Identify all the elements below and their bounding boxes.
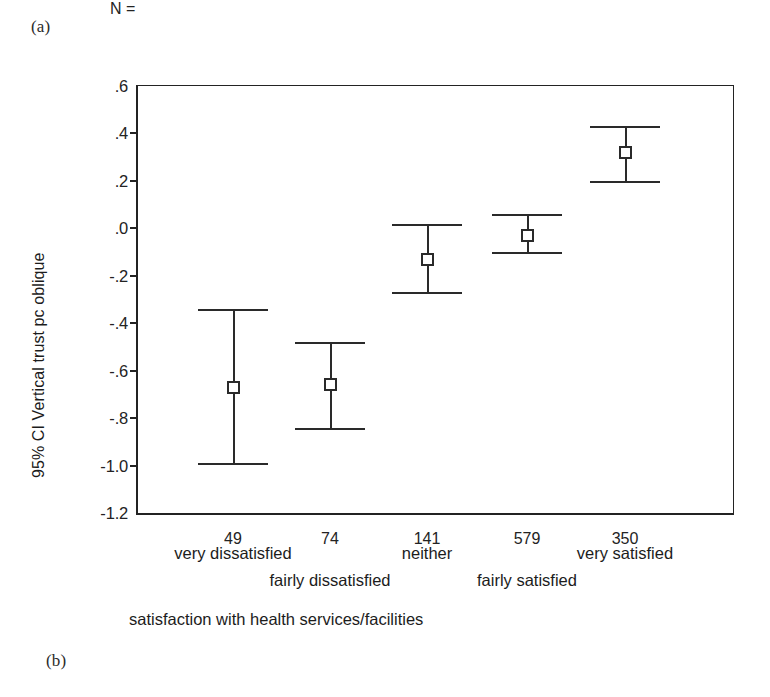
y-axis-tick-mark (130, 227, 137, 229)
n-row-label: N = (110, 0, 135, 18)
y-axis-tick-mark (130, 417, 137, 419)
y-axis-tick-mark (130, 465, 137, 467)
x-axis-category-label: fairly dissatisfied (269, 571, 390, 590)
error-bar-cap-upper (295, 342, 365, 344)
x-axis-category-label: neither (402, 544, 452, 563)
mean-marker (521, 229, 534, 242)
plot-frame (136, 85, 734, 515)
error-bar-cap-lower (295, 428, 365, 430)
y-axis-tick-mark (130, 275, 137, 277)
error-bar-cap-lower (392, 292, 462, 294)
y-axis-tick-mark (130, 322, 137, 324)
y-axis-tick-label: -.6 (109, 361, 128, 380)
mean-marker (324, 378, 337, 391)
error-bar-cap-upper (198, 309, 268, 311)
n-value: 74 (321, 530, 339, 548)
y-axis-tick-label: -.4 (109, 314, 128, 333)
y-axis-tick-label: .6 (115, 77, 128, 96)
y-axis-tick-label: -1.2 (100, 504, 128, 523)
x-axis-category-label: very dissatisfied (174, 544, 291, 563)
y-axis-tick-label: .4 (115, 124, 128, 143)
mean-marker (619, 146, 632, 159)
panel-label-b: (b) (46, 651, 66, 671)
y-axis-tick-label: -.8 (109, 409, 128, 428)
y-axis-tick-labels: .6.4.2.0-.2-.4-.6-.8-1.0-1.2 (92, 0, 128, 697)
x-axis-category-label: very satisfied (577, 544, 673, 563)
y-axis-tick-mark (130, 180, 137, 182)
y-axis-tick-mark (130, 370, 137, 372)
n-value: 579 (514, 530, 541, 548)
x-axis-category-label: fairly satisfied (477, 571, 577, 590)
error-bar-cap-upper (392, 224, 462, 226)
mean-marker (421, 253, 434, 266)
x-axis-title: satisfaction with health services/facili… (129, 610, 423, 629)
mean-marker (227, 381, 240, 394)
y-axis-tick-mark (130, 132, 137, 134)
y-axis-tick-label: -.2 (109, 266, 128, 285)
figure-page: (a) .6.4.2.0-.2-.4-.6-.8-1.0-1.2 95% CI … (0, 0, 770, 697)
y-axis-tick-label: .0 (115, 219, 128, 238)
error-bar-cap-upper (590, 126, 660, 128)
error-bar-cap-lower (590, 181, 660, 183)
error-bar-cap-lower (198, 463, 268, 465)
error-bar-cap-upper (492, 214, 562, 216)
y-axis-tick-label: -1.0 (100, 456, 128, 475)
y-axis-title: 95% CI Vertical trust pc oblique (30, 0, 48, 478)
y-axis-tick-label: .2 (115, 171, 128, 190)
error-bar-cap-lower (492, 252, 562, 254)
